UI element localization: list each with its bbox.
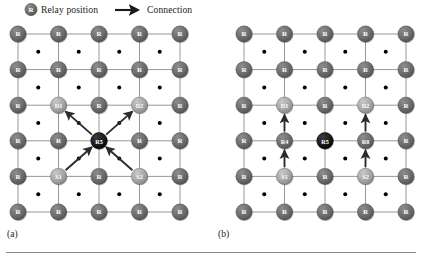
node-r-2-4[interactable]: R (317, 168, 334, 185)
cell-center-dot (36, 50, 40, 54)
node-label: D1 (55, 102, 63, 109)
cell-center-dot (36, 121, 40, 125)
cell-center-dot (262, 50, 266, 54)
node-label: D2 (362, 102, 370, 109)
node-r-1-1[interactable]: R (50, 61, 67, 78)
legend-connection-label: Connection (147, 4, 192, 15)
node-r-4-3[interactable]: R (398, 133, 415, 150)
node-r-0-0[interactable]: R (10, 26, 27, 43)
node-r4-1-3[interactable]: R4 (276, 133, 293, 150)
node-label: S2 (136, 173, 143, 180)
node-r-1-1[interactable]: R (276, 61, 293, 78)
connection-arrow-r5-to-d1 (66, 111, 92, 134)
panel-b-caption: (b) (218, 228, 229, 239)
node-r-2-0[interactable]: R (317, 26, 334, 43)
cell-center-dot (384, 157, 388, 161)
node-r-1-5[interactable]: R (276, 204, 293, 221)
node-r-4-1[interactable]: R (172, 61, 189, 78)
node-d1-1-2[interactable]: D1 (276, 97, 293, 114)
node-label: D2 (136, 102, 144, 109)
node-r-4-2[interactable]: R (172, 97, 189, 114)
cell-center-dot (262, 157, 266, 161)
cell-center-dot (36, 85, 40, 89)
node-r-4-5[interactable]: R (398, 204, 415, 221)
cell-center-dot (343, 121, 347, 125)
node-r5-2-3[interactable]: R5 (91, 133, 108, 150)
node-r-1-0[interactable]: R (50, 26, 67, 43)
node-r5-2-3[interactable]: R5 (317, 133, 334, 150)
figure-canvas: R RRRRRRRRRRRD1RD2RRRR5RRRS1RS2RRRRRR RR… (0, 0, 422, 263)
node-r-0-0[interactable]: R (236, 26, 253, 43)
node-label: S2 (362, 173, 369, 180)
cell-center-dot (36, 157, 40, 161)
node-r-2-5[interactable]: R (317, 204, 334, 221)
node-r-2-2[interactable]: R (317, 97, 334, 114)
node-r-2-1[interactable]: R (317, 61, 334, 78)
node-r-3-1[interactable]: R (131, 61, 148, 78)
cell-center-dot (303, 121, 307, 125)
cell-center-dot (36, 192, 40, 196)
node-r-4-3[interactable]: R (172, 133, 189, 150)
cell-center-dot (158, 121, 162, 125)
cell-center-dot (384, 50, 388, 54)
connection-arrow-s2-to-r5 (106, 147, 132, 170)
cell-center-dot (158, 85, 162, 89)
node-s1-1-4[interactable]: S1 (276, 168, 293, 185)
node-r-0-2[interactable]: R (236, 97, 253, 114)
node-r-0-5[interactable]: R (236, 204, 253, 221)
node-r-4-0[interactable]: R (398, 26, 415, 43)
cell-center-dot (384, 121, 388, 125)
node-r8-3-3[interactable]: R8 (357, 133, 374, 150)
cell-center-dot (303, 157, 307, 161)
node-r-0-1[interactable]: R (236, 61, 253, 78)
node-r-4-4[interactable]: R (398, 168, 415, 185)
node-r-1-3[interactable]: R (50, 133, 67, 150)
node-r-0-2[interactable]: R (10, 97, 27, 114)
node-r-1-0[interactable]: R (276, 26, 293, 43)
cell-center-dot (343, 157, 347, 161)
node-d2-3-2[interactable]: D2 (357, 97, 374, 114)
cell-center-dot (158, 157, 162, 161)
node-r-0-3[interactable]: R (236, 133, 253, 150)
connection-arrow-s1-to-r5 (66, 147, 92, 170)
node-r-0-4[interactable]: R (236, 168, 253, 185)
node-r-2-0[interactable]: R (91, 26, 108, 43)
node-r-2-2[interactable]: R (91, 97, 108, 114)
node-label: R5 (321, 138, 329, 145)
node-s2-3-4[interactable]: S2 (357, 168, 374, 185)
node-r-0-1[interactable]: R (10, 61, 27, 78)
cell-center-dot (303, 192, 307, 196)
cell-center-dot (77, 192, 81, 196)
node-r-4-5[interactable]: R (172, 204, 189, 221)
node-label: S1 (281, 173, 288, 180)
node-r-4-4[interactable]: R (172, 168, 189, 185)
cell-center-dot (343, 85, 347, 89)
node-s1-1-4[interactable]: S1 (50, 168, 67, 185)
node-r-3-5[interactable]: R (131, 204, 148, 221)
cell-center-dot (77, 50, 81, 54)
node-r-3-1[interactable]: R (357, 61, 374, 78)
cell-center-dot (158, 50, 162, 54)
node-r-4-1[interactable]: R (398, 61, 415, 78)
node-r-2-1[interactable]: R (91, 61, 108, 78)
node-r-2-4[interactable]: R (91, 168, 108, 185)
node-s2-3-4[interactable]: S2 (131, 168, 148, 185)
node-r-2-5[interactable]: R (91, 204, 108, 221)
node-r-4-0[interactable]: R (172, 26, 189, 43)
node-d2-3-2[interactable]: D2 (131, 97, 148, 114)
node-r-1-5[interactable]: R (50, 204, 67, 221)
node-r-3-0[interactable]: R (131, 26, 148, 43)
cell-center-dot (158, 192, 162, 196)
panel-b-diagram: RRRRRRRRRRRD1RD2RRR4R5R8RRS1RS2RRRRRR (236, 26, 415, 221)
node-r-4-2[interactable]: R (398, 97, 415, 114)
node-r-3-0[interactable]: R (357, 26, 374, 43)
cell-center-dot (117, 50, 121, 54)
node-r-0-5[interactable]: R (10, 204, 27, 221)
node-r-0-4[interactable]: R (10, 168, 27, 185)
node-r-3-5[interactable]: R (357, 204, 374, 221)
cell-center-dot (262, 121, 266, 125)
node-r-3-3[interactable]: R (131, 133, 148, 150)
node-r-0-3[interactable]: R (10, 133, 27, 150)
node-d1-1-2[interactable]: D1 (50, 97, 67, 114)
cell-center-dot (117, 85, 121, 89)
